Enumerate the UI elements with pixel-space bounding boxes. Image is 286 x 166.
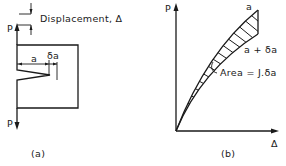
- curve-a-label: a: [246, 1, 252, 12]
- y-axis-label: P: [165, 3, 171, 14]
- crack-length-label: a: [31, 53, 37, 64]
- load-arrow-down-icon: [15, 122, 20, 130]
- curve-a-plus-da-label: a + δa: [244, 44, 277, 55]
- y-axis-arrow-icon: [174, 3, 179, 11]
- x-axis-arrow-icon: [271, 129, 279, 134]
- displacement-arrow-down-icon: [30, 9, 33, 14]
- crack-increment-label: δa: [47, 50, 59, 61]
- dim-arrow-right-icon: [45, 63, 49, 66]
- j-integral-diagram: P P Displacement, Δ a δa (a): [0, 0, 286, 166]
- caption-a: (a): [31, 148, 45, 159]
- dim-arrow-increment-icon: [53, 63, 57, 66]
- figure-b-load-displacement-plot: P Δ a a + δa Area = J.δa (b): [165, 1, 279, 159]
- x-axis-label: Δ: [271, 138, 278, 149]
- load-label-bottom: P: [7, 118, 13, 129]
- load-arrow-up-icon: [15, 23, 20, 31]
- area-label: Area = J.δa: [220, 67, 277, 78]
- dim-arrow-left-icon: [18, 63, 22, 66]
- displacement-label: Displacement, Δ: [40, 13, 123, 24]
- caption-b: (b): [221, 148, 235, 159]
- figure-a-specimen: P P Displacement, Δ a δa (a): [7, 3, 123, 159]
- displacement-arrow-up-icon: [30, 25, 33, 30]
- load-label-top: P: [7, 23, 13, 34]
